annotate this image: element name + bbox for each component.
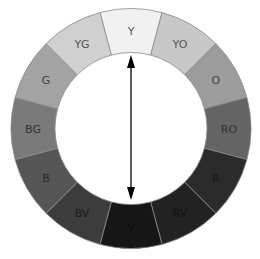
segment-label-o: O xyxy=(212,74,221,87)
segment-label-r: R xyxy=(212,172,220,185)
segment-label-y: Y xyxy=(127,25,135,38)
segment-label-b: B xyxy=(42,172,50,185)
segment-label-rv: RV xyxy=(173,207,188,220)
segment-label-yo: YO xyxy=(172,38,188,51)
double-headed-arrow xyxy=(127,55,135,200)
segment-label-g: G xyxy=(42,74,51,87)
arrow-head-up-icon xyxy=(127,55,135,68)
arrow-head-down-icon xyxy=(127,187,135,200)
segment-label-yg: YG xyxy=(73,38,89,51)
segment-label-bv: BV xyxy=(75,207,90,220)
segment-label-bg: BG xyxy=(25,123,41,136)
segment-label-v: V xyxy=(127,221,135,234)
color-wheel: YYOORORRVVBVBBGGYG xyxy=(0,0,260,259)
segment-label-ro: RO xyxy=(221,123,238,136)
